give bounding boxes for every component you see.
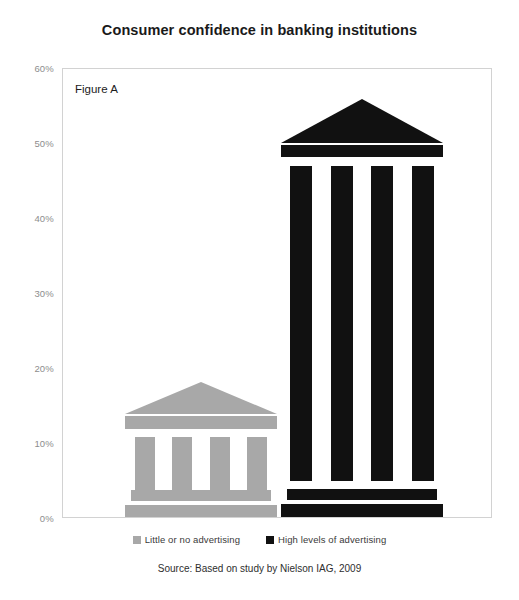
legend-swatch-icon <box>133 536 141 544</box>
bar-column <box>210 437 230 494</box>
legend-item-high-levels-of-advertising: High levels of advertising <box>266 534 386 545</box>
y-tick-label: 30% <box>8 288 54 299</box>
chart-title: Consumer confidence in banking instituti… <box>0 22 519 38</box>
legend-label: High levels of advertising <box>278 534 386 545</box>
bar-pediment-icon <box>125 382 277 414</box>
bar-column <box>247 437 267 494</box>
bar-architrave <box>125 416 277 429</box>
bar-step-upper <box>131 490 271 501</box>
chart-legend: Little or no advertising High levels of … <box>0 534 519 545</box>
chart-figure: Consumer confidence in banking instituti… <box>0 0 519 600</box>
bar-column <box>371 166 393 481</box>
bar-step-upper <box>287 489 437 500</box>
legend-label: Little or no advertising <box>145 534 240 545</box>
bar-pediment-icon <box>281 99 443 143</box>
figure-label: Figure A <box>75 83 118 95</box>
bar-column <box>331 166 353 481</box>
bar-step-lower <box>281 504 443 517</box>
source-note: Source: Based on study by Nielson IAG, 2… <box>0 563 519 574</box>
bar-step-lower <box>125 505 277 517</box>
y-tick-label: 20% <box>8 363 54 374</box>
bar-architrave <box>281 145 443 157</box>
plot-area: Figure A <box>62 68 492 518</box>
bar-column <box>172 437 192 494</box>
y-tick-label: 40% <box>8 213 54 224</box>
y-tick-label: 50% <box>8 138 54 149</box>
bar-high-levels-of-advertising <box>281 99 443 517</box>
bar-colonnade <box>125 437 277 494</box>
legend-swatch-icon <box>266 536 274 544</box>
bar-column <box>412 166 434 481</box>
y-axis: 60% 50% 40% 30% 20% 10% 0% <box>0 0 62 600</box>
bar-little-or-no-advertising <box>125 382 277 517</box>
legend-item-little-or-no-advertising: Little or no advertising <box>133 534 240 545</box>
y-tick-label: 0% <box>8 513 54 524</box>
bar-column <box>290 166 312 481</box>
bar-column <box>135 437 155 494</box>
y-tick-label: 60% <box>8 63 54 74</box>
y-tick-label: 10% <box>8 438 54 449</box>
bar-colonnade <box>281 166 443 481</box>
